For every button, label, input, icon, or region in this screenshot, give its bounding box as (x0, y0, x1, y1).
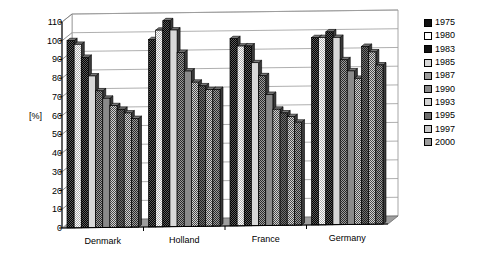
x-axis-category-label: Holland (144, 235, 224, 245)
legend-swatch-icon (424, 45, 432, 53)
legend-swatch-icon (424, 138, 432, 146)
legend-swatch-icon (424, 72, 432, 80)
legend-item[interactable]: 1987 (424, 69, 482, 82)
legend-swatch-icon (424, 98, 432, 106)
legend-item[interactable]: 2000 (424, 136, 482, 149)
legend-item[interactable]: 1995 (424, 109, 482, 122)
legend-item-label: 1993 (435, 98, 455, 107)
legend-item[interactable]: 1993 (424, 96, 482, 109)
legend-swatch-icon (424, 85, 432, 93)
legend-swatch-icon (424, 125, 432, 133)
legend-item-label: 1987 (435, 71, 455, 80)
x-axis-category-label: Denmark (63, 236, 143, 246)
bar-chart: 0102030405060[%]708090100110 DenmarkHoll… (0, 0, 484, 254)
x-axis-category-label: France (226, 234, 306, 244)
x-axis-category-label: Germany (307, 233, 387, 243)
chart-legend: 1975198019831985198719901993199519972000 (424, 16, 482, 149)
legend-item[interactable]: 1990 (424, 82, 482, 95)
legend-swatch-icon (424, 32, 432, 40)
legend-item-label: 1975 (435, 18, 455, 27)
legend-item-label: 1995 (435, 111, 455, 120)
legend-item[interactable]: 1985 (424, 56, 482, 69)
legend-item-label: 1985 (435, 58, 455, 67)
legend-swatch-icon (424, 19, 432, 27)
legend-item-label: 1980 (435, 31, 455, 40)
legend-item[interactable]: 1975 (424, 16, 482, 29)
legend-item-label: 2000 (435, 138, 455, 147)
legend-item[interactable]: 1983 (424, 43, 482, 56)
legend-item-label: 1990 (435, 85, 455, 94)
legend-item[interactable]: 1997 (424, 122, 482, 135)
legend-swatch-icon (424, 112, 432, 120)
legend-item-label: 1997 (435, 125, 455, 134)
legend-swatch-icon (424, 59, 432, 67)
plot-area (0, 0, 484, 254)
legend-item[interactable]: 1980 (424, 29, 482, 42)
legend-item-label: 1983 (435, 45, 455, 54)
